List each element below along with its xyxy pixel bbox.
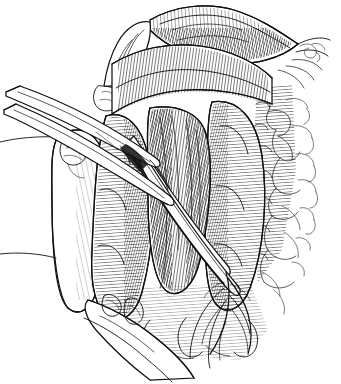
surgical-illustration-svg <box>0 0 341 384</box>
illustration-canvas: Surgical dissection line illustration pe… <box>0 0 341 384</box>
